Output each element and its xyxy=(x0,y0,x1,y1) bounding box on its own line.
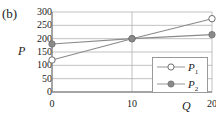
figure-panel-b: (b) P Q 050100150200250300 01020 P1 P2 xyxy=(0,0,216,120)
data-point-p2 xyxy=(209,31,215,37)
legend-entry-p1: P1 xyxy=(153,59,209,75)
data-point-p1 xyxy=(209,15,215,21)
legend-label-p2: P2 xyxy=(188,78,198,93)
data-point-p2 xyxy=(129,35,135,41)
legend-label-p1: P1 xyxy=(188,61,198,76)
legend-entry-p2: P2 xyxy=(153,76,209,92)
open-circle-marker-icon xyxy=(156,59,186,75)
legend: P1 P2 xyxy=(152,57,208,93)
data-point-p2 xyxy=(49,41,55,47)
filled-circle-marker-icon xyxy=(156,76,186,92)
data-point-p1 xyxy=(49,57,55,63)
